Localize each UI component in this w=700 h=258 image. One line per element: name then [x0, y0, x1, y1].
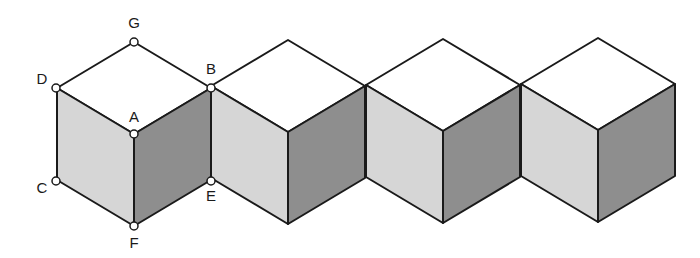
cube-4	[521, 38, 675, 222]
vertex-g	[130, 38, 138, 46]
cube-2	[211, 40, 365, 224]
vertex-label-g: G	[128, 14, 140, 31]
vertex-f	[130, 222, 138, 230]
vertex-label-c: C	[37, 179, 48, 196]
vertex-label-d: D	[37, 70, 48, 87]
vertex-c	[52, 177, 60, 185]
vertex-label-f: F	[129, 234, 138, 251]
vertex-e	[207, 177, 215, 185]
vertex-label-a: A	[129, 108, 139, 125]
cube-3	[366, 39, 520, 223]
vertex-label-e: E	[206, 187, 216, 204]
cube-diagram: GDBACEF	[0, 0, 700, 258]
vertex-d	[52, 84, 60, 92]
vertex-label-b: B	[206, 60, 216, 77]
cubes-group	[57, 38, 675, 226]
vertex-a	[130, 130, 138, 138]
vertex-b	[207, 84, 215, 92]
